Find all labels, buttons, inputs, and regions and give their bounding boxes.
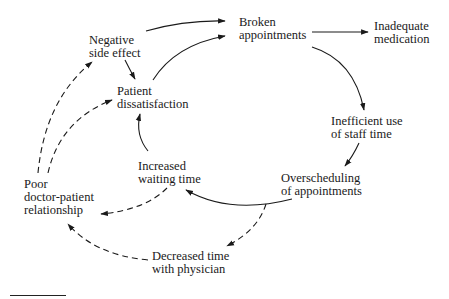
node-line: medication xyxy=(374,33,430,46)
node-negative-side-effect: Negative side effect xyxy=(89,34,140,60)
edge-poor-to-dissatisfaction xyxy=(48,100,112,173)
edge-waiting-to-dissatisfaction xyxy=(139,114,148,151)
node-line: dissatisfaction xyxy=(117,98,189,111)
node-line: with physician xyxy=(152,263,229,276)
node-patient-dissatisfaction: Patient dissatisfaction xyxy=(117,85,189,111)
node-line: waiting time xyxy=(138,173,201,186)
edge-inefficient-to-overscheduling xyxy=(345,143,359,166)
node-line: side effect xyxy=(89,47,140,60)
node-line: appointments xyxy=(239,29,306,42)
node-inefficient-use: Inefficient use of staff time xyxy=(331,115,403,141)
node-overscheduling: Overscheduling of appointments xyxy=(281,172,362,198)
edge-waiting-to-poor xyxy=(101,188,167,214)
edge-poor-to-negative xyxy=(38,62,92,173)
edge-dissatisfaction-to-broken xyxy=(153,36,225,80)
node-line: relationship xyxy=(24,204,94,217)
edge-broken-to-inefficient xyxy=(312,47,364,110)
node-poor-relationship: Poor doctor-patient relationship xyxy=(24,178,94,217)
edge-negative-to-dissatisfaction xyxy=(125,60,135,79)
edge-overscheduling-to-decreased xyxy=(227,204,266,246)
node-inadequate-medication: Inadequate medication xyxy=(374,20,430,46)
node-broken-appointments: Broken appointments xyxy=(239,16,306,42)
edge-negative-to-broken xyxy=(146,21,225,31)
edge-decreased-to-poor xyxy=(68,224,148,260)
footnote-rule xyxy=(10,295,66,296)
node-line: of appointments xyxy=(281,185,362,198)
edge-overscheduling-to-waiting xyxy=(186,190,292,205)
node-line: of staff time xyxy=(331,128,403,141)
node-decreased-time: Decreased time with physician xyxy=(152,250,229,276)
node-increased-waiting-time: Increased waiting time xyxy=(138,160,201,186)
